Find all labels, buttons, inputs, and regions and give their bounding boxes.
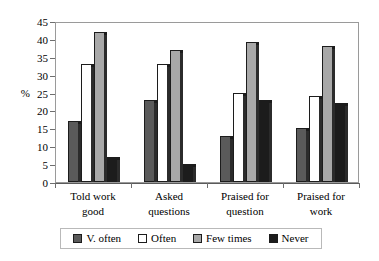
y-axis-tick-labels: 051015202530354045	[26, 22, 52, 183]
legend-swatch	[269, 234, 278, 243]
bar	[246, 42, 259, 182]
bar	[183, 164, 196, 182]
plot-area	[55, 22, 359, 183]
x-axis-category-label: Told workgood	[55, 189, 131, 219]
bar	[144, 100, 157, 182]
bar-side-shadow	[345, 103, 348, 182]
x-axis-separator	[131, 183, 132, 188]
x-axis-category-label-line: Asked	[155, 190, 183, 202]
bar-top-cap	[117, 157, 120, 160]
bar-side-shadow	[269, 100, 272, 182]
x-axis-category-label-line: question	[207, 204, 283, 219]
legend-item[interactable]: Never	[269, 233, 309, 244]
x-axis-category-label: Praised forwork	[283, 189, 359, 219]
bar-top-cap	[269, 100, 272, 103]
y-axis-tick-label: 10	[37, 142, 48, 153]
bar-group	[284, 23, 360, 182]
bar-top-cap	[345, 103, 348, 106]
legend-label: Never	[282, 233, 309, 244]
bar-group	[132, 23, 208, 182]
x-axis-separator	[207, 183, 208, 188]
y-axis-tick-label: 0	[43, 178, 49, 189]
legend-swatch	[193, 234, 202, 243]
legend-swatch	[73, 234, 82, 243]
x-axis-category-label-line: Praised for	[297, 190, 345, 202]
bar-top-cap	[332, 46, 335, 49]
bar-side-shadow	[117, 157, 120, 182]
legend-label: V. often	[86, 233, 121, 244]
bar	[233, 93, 246, 182]
x-axis-category-label-line: questions	[131, 204, 207, 219]
chart-legend: V. oftenOftenFew timesNever	[60, 228, 322, 249]
bar	[296, 128, 309, 182]
bar	[107, 157, 120, 182]
x-axis-category-label-line: work	[283, 204, 359, 219]
legend-swatch	[138, 234, 147, 243]
x-axis-category-label-line: good	[55, 204, 131, 219]
legend-item[interactable]: Often	[138, 233, 176, 244]
x-axis-category-label: Praised forquestion	[207, 189, 283, 219]
bar-top-cap	[193, 164, 196, 167]
x-axis-category-label-line: Told work	[70, 190, 115, 202]
bar-group	[56, 23, 132, 182]
bar-top-cap	[104, 32, 107, 35]
bars-container	[56, 23, 358, 182]
bar	[309, 96, 322, 182]
legend-item[interactable]: Few times	[193, 233, 252, 244]
bar	[322, 46, 335, 182]
bar	[170, 50, 183, 182]
bar	[259, 100, 272, 182]
legend-label: Often	[151, 233, 176, 244]
y-axis-tick-label: 15	[37, 124, 48, 135]
bar-top-cap	[256, 42, 259, 45]
y-axis-tick-label: 30	[37, 70, 48, 81]
bar-side-shadow	[180, 50, 183, 182]
bar	[157, 64, 170, 182]
x-axis-category-labels: Told workgoodAskedquestionsPraised forqu…	[55, 189, 359, 223]
x-axis-category-label: Askedquestions	[131, 189, 207, 219]
y-axis-tick-label: 20	[37, 106, 48, 117]
y-axis-tick-label: 25	[37, 88, 48, 99]
x-axis-separator	[283, 183, 284, 188]
x-axis-category-label-line: Praised for	[221, 190, 269, 202]
bar-top-cap	[180, 50, 183, 53]
bar	[81, 64, 94, 182]
y-axis-tick-label: 40	[37, 34, 48, 45]
y-axis-tick-label: 5	[43, 160, 49, 171]
bar	[94, 32, 107, 182]
bar	[68, 121, 81, 182]
legend-label: Few times	[206, 233, 252, 244]
x-axis-separator	[55, 183, 56, 188]
bar-chart: % 051015202530354045 Told workgoodAskedq…	[0, 0, 379, 261]
bar	[220, 136, 233, 183]
y-axis-tick-label: 35	[37, 52, 48, 63]
y-axis-tick-label: 45	[37, 17, 48, 28]
legend-item[interactable]: V. often	[73, 233, 121, 244]
bar	[335, 103, 348, 182]
x-axis-separator	[359, 183, 360, 188]
bar-group	[208, 23, 284, 182]
